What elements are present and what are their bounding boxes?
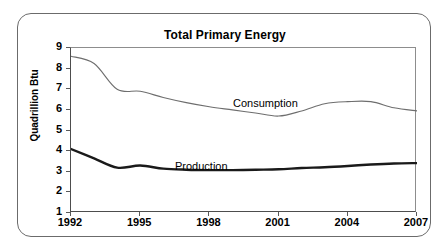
y-tick-label: 3 <box>44 165 62 176</box>
x-tick-label: 2004 <box>327 216 367 228</box>
x-tick-label: 2001 <box>258 216 298 228</box>
plot-area <box>70 47 416 212</box>
chart-title: Total Primary Energy <box>18 28 432 42</box>
y-tick-label: 9 <box>44 41 62 52</box>
y-tick-label: 5 <box>44 124 62 135</box>
series-label-consumption: Consumption <box>233 97 298 109</box>
series-label-production: Production <box>175 160 228 172</box>
y-tick-label: 7 <box>44 82 62 93</box>
series-line-production <box>71 149 417 170</box>
x-tick-label: 1992 <box>50 216 90 228</box>
x-tick-label: 2007 <box>396 216 436 228</box>
y-tick-label: 6 <box>44 103 62 114</box>
x-tick-label: 1998 <box>188 216 228 228</box>
chart-card: Total Primary Energy Quadrillion Btu 987… <box>17 13 431 237</box>
y-axis-title: Quadrillion Btu <box>29 46 40 166</box>
series-canvas <box>71 48 417 213</box>
y-tick-label: 4 <box>44 144 62 155</box>
y-tick-label: 2 <box>44 185 62 196</box>
x-tick-label: 1995 <box>119 216 159 228</box>
y-tick-label: 8 <box>44 62 62 73</box>
